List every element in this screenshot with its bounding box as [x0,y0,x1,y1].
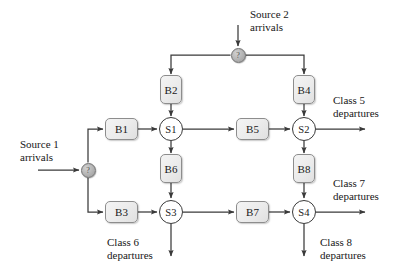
buffer-b6[interactable]: B6 [160,154,182,183]
source2-splitter-node[interactable]: ? [231,48,246,63]
source1-label: Source 1 arrivals [20,138,90,163]
buffer-b3[interactable]: B3 [105,201,138,223]
class8-departures-label: Class 8 departures [320,236,395,261]
wire-split1-to-b3 [88,178,103,213]
buffer-b7-label: B7 [246,206,259,218]
server-s3[interactable]: S3 [159,200,183,224]
server-s4-label: S4 [298,207,310,218]
server-s2-label: S2 [298,124,310,135]
class6-departures-label: Class 6 departures [107,236,177,261]
server-s1[interactable]: S1 [159,117,183,141]
buffer-b2-label: B2 [164,84,177,96]
class7-departures-label: Class 7 departures [333,177,403,202]
class5-departures-label: Class 5 departures [333,94,403,119]
server-s4[interactable]: S4 [292,200,316,224]
buffer-b8-label: B8 [297,163,310,175]
buffer-b4[interactable]: B4 [293,75,315,104]
server-s2[interactable]: S2 [292,117,316,141]
buffer-b7[interactable]: B7 [236,201,269,223]
queueing-network-diagram: ? ? B1 B2 B3 B4 B5 B6 B7 B8 S1 S2 S3 S4 … [0,0,403,277]
buffer-b1-label: B1 [115,123,128,135]
source2-label: Source 2 arrivals [250,8,340,33]
buffer-b5-label: B5 [246,123,259,135]
splitter-question-glyph: ? [236,51,240,60]
buffer-b1[interactable]: B1 [105,118,138,140]
buffer-b6-label: B6 [164,163,177,175]
server-s3-label: S3 [165,207,177,218]
buffer-b2[interactable]: B2 [160,75,182,104]
splitter-question-glyph: ? [86,166,90,175]
buffer-b8[interactable]: B8 [293,154,315,183]
wire-split2-to-b2 [171,55,231,74]
source1-splitter-node[interactable]: ? [81,163,96,178]
buffer-b4-label: B4 [297,84,310,96]
buffer-b3-label: B3 [115,206,128,218]
buffer-b5[interactable]: B5 [236,118,269,140]
server-s1-label: S1 [165,124,177,135]
wire-split1-to-b1 [88,129,103,163]
wire-split2-to-b4 [246,55,305,74]
